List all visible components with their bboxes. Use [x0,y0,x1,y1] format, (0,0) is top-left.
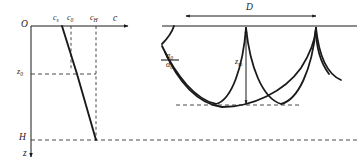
angle-label-alpha-0-upper: α0 [166,52,173,60]
angle-label-alpha-0-lower: α0 [166,61,173,69]
tick-c-H-sub: H [94,17,98,23]
depth-label-z-m: zm [235,58,242,66]
alpha-upper-sub: 0 [170,55,173,61]
tick-label-c-s: cs [53,14,59,22]
figure-container: O c z cs c0 cH z0 H D zm α0 α0 [0,0,364,167]
tick-c-s-sub: s [57,17,59,23]
tick-H-base: H [19,132,26,142]
c-axis-label: c [113,14,117,24]
figure-drawing [0,0,364,167]
z-axis-label: z [23,149,27,159]
origin-label: O [21,20,28,30]
tick-label-c-H: cH [90,14,98,22]
tick-label-z-0: z0 [17,68,23,76]
sound-speed-curve [62,26,96,140]
tick-z-0-sub: 0 [20,71,23,77]
depth-z-m-sub: m [238,61,242,67]
tick-label-c-0: c0 [67,14,73,22]
tick-label-H: H [19,133,26,143]
range-label-D: D [246,3,253,13]
alpha-lower-sub: 0 [170,64,173,70]
tick-c-0-sub: 0 [71,17,74,23]
ray-paths [162,26,341,107]
